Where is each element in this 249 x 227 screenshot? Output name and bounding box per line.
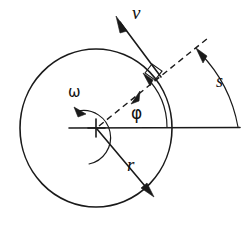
arc-length-arrowhead-icon (196, 48, 207, 63)
velocity-label: v (132, 3, 140, 22)
figure-canvas (0, 0, 249, 227)
circular-motion-figure: v s r ω φ (0, 0, 249, 227)
angle-phi-label: φ (131, 105, 142, 122)
velocity-arrowhead-icon (116, 16, 127, 33)
angular-velocity-label: ω (68, 85, 81, 100)
arc-length-label: s (216, 72, 223, 90)
radius-label: r (127, 155, 134, 174)
omega-rotation-arc (78, 110, 111, 164)
omega-arrowhead-icon (74, 107, 86, 117)
radius-line (97, 129, 150, 192)
